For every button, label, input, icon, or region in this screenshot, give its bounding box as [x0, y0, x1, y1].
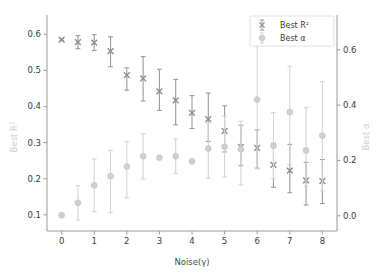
x-tick-label: 3 [157, 236, 162, 246]
y-tick-label-left: 0.3 [27, 138, 41, 148]
y-tick-label-left: 0.2 [27, 174, 41, 184]
x-tick-label: 0 [59, 236, 64, 246]
y-tick-label-left: 0.4 [27, 101, 41, 111]
x-tick-label: 7 [287, 236, 292, 246]
chart-figure: 0.10.20.30.40.50.60.00.20.40.6012345678 … [0, 0, 380, 274]
data-point-marker [205, 146, 211, 152]
data-point-marker [75, 200, 81, 206]
x-tick-label: 8 [320, 236, 325, 246]
data-point-marker [271, 143, 277, 149]
data-point-marker [287, 109, 293, 115]
data-point-marker [108, 173, 114, 179]
data-point-marker [124, 164, 130, 170]
x-tick-label: 4 [189, 236, 194, 246]
legend-label: Best R² [280, 21, 309, 30]
legend-marker-circle-icon [259, 35, 265, 41]
x-tick-label: 2 [124, 236, 129, 246]
data-point-marker [303, 148, 309, 154]
x-axis-label: Noise(γ) [174, 257, 209, 267]
y-tick-label-left: 0.5 [27, 65, 41, 75]
data-point-marker [222, 144, 228, 150]
x-tick-label: 5 [222, 236, 227, 246]
y-tick-label-left: 0.1 [27, 210, 41, 220]
x-tick-label: 1 [92, 236, 97, 246]
data-point-marker [173, 153, 179, 159]
y-axis-label-left: Best R² [9, 122, 19, 153]
y-tick-label-left: 0.6 [27, 29, 41, 39]
data-point-marker [140, 153, 146, 159]
data-point-marker [254, 97, 260, 103]
y-tick-label-right: 0.6 [343, 45, 357, 55]
x-tick-label: 6 [254, 236, 259, 246]
data-point-marker [157, 155, 163, 161]
y-tick-label-right: 0.2 [343, 155, 357, 165]
y-tick-label-right: 0.0 [343, 211, 357, 221]
y-tick-label-right: 0.4 [343, 100, 357, 110]
legend-label: Best α [280, 34, 306, 43]
data-point-marker [319, 133, 325, 139]
data-point-marker [91, 182, 97, 188]
data-point-marker [189, 158, 195, 164]
data-point-marker [59, 212, 65, 218]
y-axis-label-right: Best α [361, 123, 371, 151]
data-point-marker [238, 146, 244, 152]
chart-svg: 0.10.20.30.40.50.60.00.20.40.6012345678 … [0, 0, 380, 274]
chart-legend: Best R²Best α [250, 16, 334, 46]
